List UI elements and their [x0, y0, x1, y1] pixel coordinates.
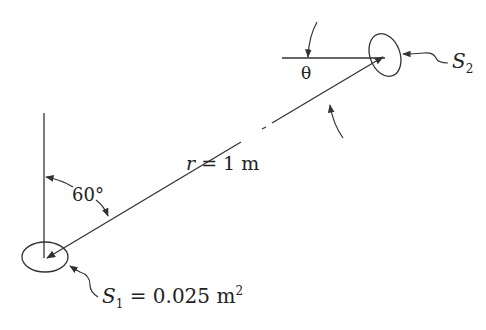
s2-sub: 2	[466, 62, 474, 76]
surface-s1-ellipse	[22, 242, 68, 272]
angle-theta-label: θ	[301, 63, 311, 83]
theta-arrow-bottom	[330, 105, 343, 138]
distance-eq: = 1 m	[195, 152, 259, 174]
s1-sup: 2	[235, 284, 243, 298]
angle-60-arrow-left	[46, 177, 73, 187]
connecting-line-r-upper	[272, 57, 383, 123]
s2-label: S2	[452, 49, 473, 76]
s2-var: S	[452, 49, 466, 73]
s1-leader-squiggle	[70, 266, 98, 297]
s1-var: S	[102, 284, 116, 308]
distance-label: r = 1 m	[186, 152, 259, 174]
theta-arrow-top	[308, 22, 317, 57]
s1-label: S1 = 0.025 m2	[102, 284, 243, 311]
s2-leader-squiggle	[403, 53, 448, 63]
connecting-line-r-mid	[262, 127, 266, 129]
surface-s2-ellipse	[363, 29, 406, 81]
angle-60-label: 60°	[72, 184, 104, 205]
s1-eq: = 0.025 m	[123, 284, 235, 308]
distance-var: r	[186, 152, 195, 174]
